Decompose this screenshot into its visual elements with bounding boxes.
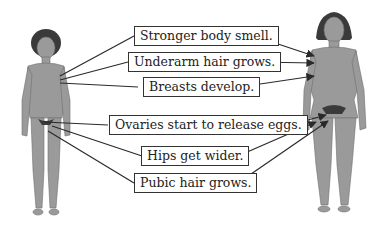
label-body-smell: Stronger body smell. (134, 26, 279, 46)
woman-figure (303, 12, 366, 212)
label-breasts: Breasts develop. (143, 77, 260, 97)
label-hips: Hips get wider. (141, 146, 249, 166)
label-pubic-hair: Pubic hair grows. (134, 173, 257, 193)
label-ovaries: Ovaries start to release eggs. (109, 115, 308, 135)
label-underarm-hair: Underarm hair grows. (128, 52, 281, 72)
puberty-diagram: Stronger body smell. Underarm hair grows… (0, 0, 388, 232)
